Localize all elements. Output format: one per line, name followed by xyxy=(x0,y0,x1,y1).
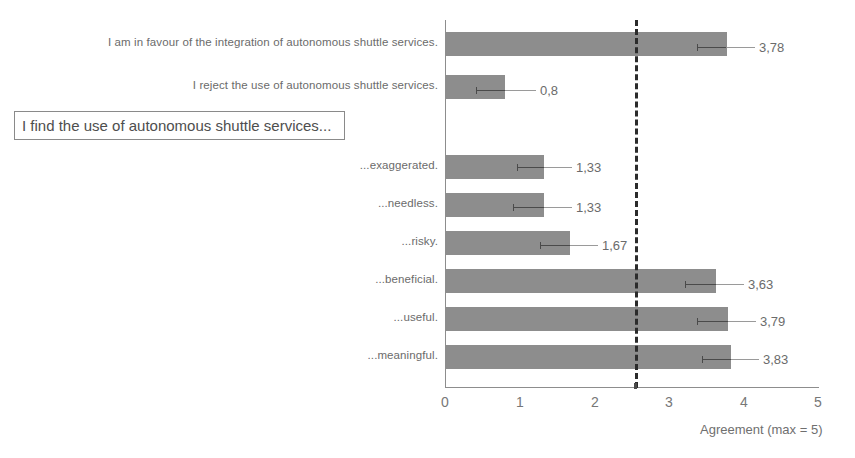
x-axis-caption: Agreement (max = 5) xyxy=(700,422,822,437)
plot-area: 3,78 0,8 1,33 1,33 1,67 3,63 3,79 3,83 0… xyxy=(445,20,820,388)
x-tick-0: 0 xyxy=(430,394,460,410)
leader-line-beneficial xyxy=(716,284,744,285)
category-label-reject: I reject the use of autonomous shuttle s… xyxy=(40,79,438,91)
leader-line-needless xyxy=(544,207,572,208)
category-label-favour: I am in favour of the integration of aut… xyxy=(40,36,438,48)
reference-line-2point5 xyxy=(635,20,638,388)
value-label-needless: 1,33 xyxy=(576,200,601,215)
group-caption-text: I find the use of autonomous shuttle ser… xyxy=(22,117,331,134)
value-label-risky: 1,67 xyxy=(602,238,627,253)
value-label-exaggerated: 1,33 xyxy=(576,160,601,175)
error-bar-meaningful xyxy=(702,359,731,360)
leader-line-meaningful xyxy=(731,359,759,360)
error-bar-favour xyxy=(697,47,726,48)
category-label-risky: ...risky. xyxy=(180,235,438,247)
bar-favour xyxy=(445,32,727,56)
x-tick-4: 4 xyxy=(729,394,759,410)
error-cap-left-useful xyxy=(697,318,698,325)
error-bar-useful xyxy=(697,321,728,322)
category-label-needless: ...needless. xyxy=(180,197,438,209)
error-bar-beneficial xyxy=(685,284,716,285)
error-cap-left-reject xyxy=(476,87,477,94)
error-bar-risky xyxy=(540,245,570,246)
value-label-favour: 3,78 xyxy=(759,40,784,55)
x-tick-5: 5 xyxy=(803,394,833,410)
x-axis-line xyxy=(445,387,819,388)
group-caption-box: I find the use of autonomous shuttle ser… xyxy=(14,111,345,140)
x-tick-2: 2 xyxy=(580,394,610,410)
value-label-useful: 3,79 xyxy=(760,314,785,329)
category-label-beneficial: ...beneficial. xyxy=(180,273,438,285)
bar-reject xyxy=(445,75,505,99)
leader-line-risky xyxy=(570,245,598,246)
error-cap-left-risky xyxy=(540,242,541,249)
value-label-reject: 0,8 xyxy=(540,83,558,98)
leader-line-exaggerated xyxy=(544,167,572,168)
category-label-exaggerated: ...exaggerated. xyxy=(180,159,438,171)
bar-needless xyxy=(445,193,544,217)
leader-line-reject xyxy=(505,90,536,91)
leader-line-favour xyxy=(727,47,755,48)
value-label-meaningful: 3,83 xyxy=(763,352,788,367)
value-label-beneficial: 3,63 xyxy=(748,277,773,292)
error-cap-left-beneficial xyxy=(685,281,686,288)
x-tick-1: 1 xyxy=(505,394,535,410)
error-bar-exaggerated xyxy=(517,167,544,168)
bar-risky xyxy=(445,231,570,255)
horizontal-bar-chart: I am in favour of the integration of aut… xyxy=(0,0,855,458)
category-label-useful: ...useful. xyxy=(180,311,438,323)
error-cap-left-needless xyxy=(513,204,514,211)
error-cap-left-exaggerated xyxy=(517,164,518,171)
leader-line-useful xyxy=(728,321,756,322)
category-label-meaningful: ...meaningful. xyxy=(180,349,438,361)
bar-beneficial xyxy=(445,269,716,293)
bar-meaningful xyxy=(445,345,731,369)
error-cap-left-meaningful xyxy=(702,356,703,363)
x-tick-3: 3 xyxy=(654,394,684,410)
error-bar-needless xyxy=(513,207,544,208)
error-cap-left-favour xyxy=(697,44,698,51)
reference-line-tick xyxy=(634,383,637,389)
bar-useful xyxy=(445,307,728,331)
